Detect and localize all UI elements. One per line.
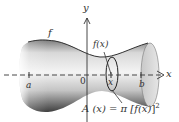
solid-of-revolution-diagram: y x a 0 x b f f(x) A (x) = π [f(x)]2 — [0, 0, 179, 122]
label-a: a — [26, 81, 31, 90]
y-axis-label: y — [83, 3, 89, 13]
label-x-point: x — [108, 78, 113, 87]
area-formula: A (x) = π [f(x)]2 — [82, 103, 160, 114]
formula-fx: f(x) — [134, 103, 151, 114]
label-radius-fx: f(x) — [93, 40, 108, 49]
label-b: b — [139, 80, 145, 89]
left-highlight — [19, 40, 48, 112]
x-axis-label: x — [166, 69, 172, 79]
label-curve-f: f — [48, 28, 52, 38]
label-origin: 0 — [80, 77, 86, 86]
formula-exponent: 2 — [155, 102, 159, 110]
formula-lhs: A (x) = π [ — [82, 103, 134, 114]
